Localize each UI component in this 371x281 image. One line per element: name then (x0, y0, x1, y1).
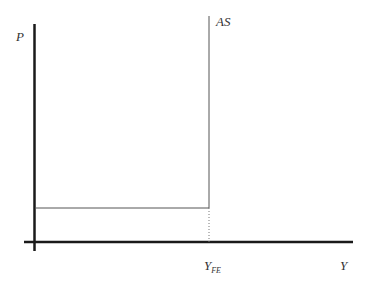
output-axis-label: Y (340, 259, 347, 272)
yfe-subscript: FE (211, 266, 221, 275)
diagram-canvas (0, 0, 371, 281)
price-axis-label: P (16, 30, 24, 43)
full-employment-output-label: YFE (204, 259, 221, 275)
as-diagram: P AS YFE Y (0, 0, 371, 281)
as-curve-label: AS (216, 15, 230, 28)
